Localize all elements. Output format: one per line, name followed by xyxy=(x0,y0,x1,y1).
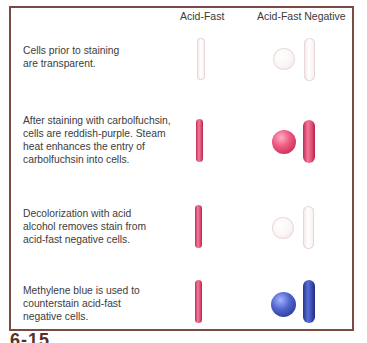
negative-rod-cell-blue xyxy=(303,280,315,323)
column-header-acid-fast-negative: Acid-Fast Negative xyxy=(257,10,346,22)
negative-rod-cell-decolorized xyxy=(303,206,314,249)
negative-coccus-cell-blue xyxy=(271,292,296,317)
row-text-line: negative cells. xyxy=(23,310,140,323)
acid-fast-rod-cell-pink xyxy=(196,119,203,162)
negative-coccus-cell-pink xyxy=(272,130,296,154)
row-text-line: Cells prior to staining xyxy=(23,44,119,57)
column-header-acid-fast: Acid-Fast xyxy=(180,10,224,22)
figure-label: 6-15 xyxy=(10,333,50,343)
negative-coccus-cell-unstained xyxy=(273,48,295,70)
row-text-line: Decolorization with acid xyxy=(23,207,146,220)
row-text-line: carbolfuchsin into cells. xyxy=(23,153,171,166)
row-text-line: acid-fast negative cells. xyxy=(23,233,146,246)
row-description-carbolfuchsin: After staining with carbolfuchsin, cells… xyxy=(23,114,171,166)
row-text-line: alcohol removes stain from xyxy=(23,220,146,233)
row-description-counterstain: Methylene blue is used to counterstain a… xyxy=(23,284,140,323)
row-description-decolorization: Decolorization with acid alcohol removes… xyxy=(23,207,146,246)
negative-coccus-cell-decolorized xyxy=(272,217,294,239)
row-text-line: counterstain acid-fast xyxy=(23,297,140,310)
row-description-prior-to-staining: Cells prior to staining are transparent. xyxy=(23,44,119,70)
negative-rod-cell-unstained xyxy=(304,38,315,81)
row-text-line: are transparent. xyxy=(23,57,119,70)
negative-rod-cell-pink xyxy=(303,120,315,163)
row-text-line: cells are reddish-purple. Steam xyxy=(23,127,171,140)
row-text-line: heat enhances the entry of xyxy=(23,140,171,153)
row-text-line: After staining with carbolfuchsin, xyxy=(23,114,171,127)
acid-fast-rod-cell-unstained xyxy=(197,38,205,80)
acid-fast-rod-cell-pink xyxy=(195,280,202,323)
acid-fast-rod-cell-pink xyxy=(195,205,202,248)
row-text-line: Methylene blue is used to xyxy=(23,284,140,297)
